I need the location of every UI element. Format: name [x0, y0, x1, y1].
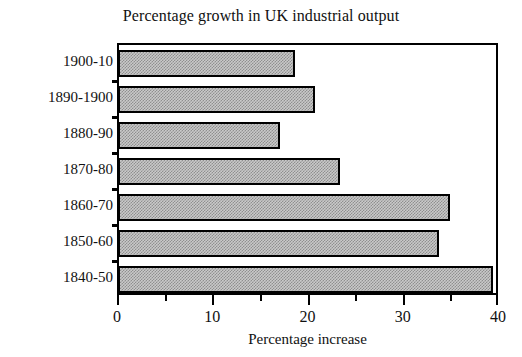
x-axis-major-tick-20 — [308, 295, 310, 305]
y-axis-label-1890-1900: 1890-1900 — [5, 88, 113, 106]
bar-1890-1900 — [118, 86, 315, 113]
bar-1870-80 — [118, 158, 340, 185]
x-axis-major-tick-30 — [403, 295, 405, 305]
bar-1900-10 — [118, 50, 295, 77]
x-axis-ticks — [117, 295, 498, 307]
x-axis-tick-label-20: 20 — [300, 307, 316, 327]
x-axis-major-tick-0 — [117, 295, 119, 305]
bar-1850-60 — [118, 230, 439, 257]
x-axis-title: Percentage increase — [117, 330, 498, 348]
y-axis-label-1880-90: 1880-90 — [5, 124, 113, 142]
bar-chart-figure: Percentage growth in UK industrial outpu… — [0, 0, 522, 357]
y-axis-tick — [112, 260, 119, 263]
bar-1860-70 — [118, 194, 450, 221]
x-axis-tick-label-10: 10 — [204, 307, 220, 327]
bars-container — [119, 45, 496, 293]
plot-area — [117, 43, 498, 295]
y-axis-tick — [112, 224, 119, 227]
x-axis-minor-tick-15 — [260, 295, 262, 301]
x-axis-minor-tick-25 — [355, 295, 357, 301]
y-axis-label-1860-70: 1860-70 — [5, 196, 113, 214]
y-axis-category-labels: 1900-101890-19001880-901870-801860-70185… — [0, 43, 113, 295]
x-axis-major-tick-40 — [496, 295, 498, 305]
x-axis-tick-label-0: 0 — [113, 307, 121, 327]
x-axis-minor-tick-35 — [450, 295, 452, 301]
x-axis-minor-tick-5 — [165, 295, 167, 301]
y-axis-label-1840-50: 1840-50 — [5, 268, 113, 286]
y-axis-tick — [112, 188, 119, 191]
y-axis-label-1900-10: 1900-10 — [5, 52, 113, 70]
x-axis-major-tick-10 — [212, 295, 214, 305]
y-axis-tick — [112, 80, 119, 83]
bar-1840-50 — [118, 266, 493, 293]
bar-1880-90 — [118, 122, 280, 149]
y-axis-label-1850-60: 1850-60 — [5, 232, 113, 250]
chart-title: Percentage growth in UK industrial outpu… — [0, 6, 522, 26]
x-axis-tick-label-30: 30 — [395, 307, 411, 327]
y-axis-tick — [112, 152, 119, 155]
x-axis-tick-labels: 010203040 — [117, 307, 498, 331]
x-axis-tick-label-40: 40 — [490, 307, 506, 327]
y-axis-label-1870-80: 1870-80 — [5, 160, 113, 178]
y-axis-tick — [112, 116, 119, 119]
